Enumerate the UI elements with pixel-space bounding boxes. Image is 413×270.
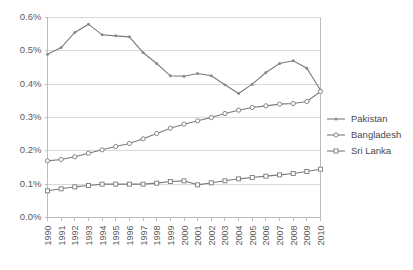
x-axis-tick-label: 2006: [261, 226, 271, 246]
data-point-marker: [100, 148, 104, 152]
data-point-marker: [168, 180, 172, 184]
data-point-marker: [141, 182, 145, 186]
x-axis-tick-label: 2000: [180, 226, 190, 246]
legend-item-sri-lanka[interactable]: Sri Lanka: [327, 145, 392, 156]
data-point-marker: [223, 179, 227, 183]
data-point-marker: [87, 23, 90, 26]
data-point-marker: [114, 34, 117, 37]
data-point-marker: [46, 189, 50, 193]
data-point-marker: [155, 62, 158, 65]
data-point-marker: [264, 104, 268, 108]
data-point-marker: [223, 111, 227, 115]
data-point-marker: [318, 89, 322, 93]
data-point-marker: [209, 181, 213, 185]
data-point-marker: [169, 74, 172, 77]
data-point-marker: [86, 184, 90, 188]
data-point-marker: [277, 102, 281, 106]
data-point-marker: [237, 177, 241, 181]
data-point-marker: [73, 31, 76, 34]
data-point-marker: [223, 83, 226, 86]
data-point-marker: [305, 99, 309, 103]
x-axis-tick-label: 1994: [98, 226, 108, 246]
data-point-marker: [114, 144, 118, 148]
data-point-marker: [155, 181, 159, 185]
x-axis-tick-label: 1996: [125, 226, 135, 246]
data-point-marker: [292, 59, 295, 62]
data-point-marker: [142, 51, 145, 54]
data-point-marker: [168, 126, 172, 130]
x-axis-tick-label: 2008: [289, 226, 299, 246]
data-point-marker: [196, 183, 200, 187]
data-point-marker: [291, 101, 295, 105]
x-axis-tick-label: 1999: [166, 226, 176, 246]
x-axis-tick-label: 1990: [43, 226, 53, 246]
data-point-marker: [182, 122, 186, 126]
x-axis-tick-label: 2002: [207, 226, 217, 246]
data-point-marker: [46, 53, 49, 56]
data-point-marker: [209, 115, 213, 119]
y-axis-tick-label: 0.0%: [20, 211, 42, 222]
data-point-marker: [305, 67, 308, 70]
x-axis-tick-label: 2004: [234, 226, 244, 246]
data-point-marker: [210, 74, 213, 77]
data-point-marker: [73, 155, 77, 159]
data-point-marker: [334, 149, 338, 153]
data-point-marker: [141, 137, 145, 141]
data-point-marker: [305, 170, 309, 174]
data-point-marker: [86, 151, 90, 155]
series-line-path: [48, 24, 321, 93]
data-point-marker: [196, 72, 199, 75]
data-point-marker: [319, 167, 323, 171]
data-point-marker: [60, 46, 63, 49]
series-sri-lanka: [46, 167, 323, 193]
y-axis-tick-label: 0.3%: [20, 111, 42, 122]
x-axis-tick-label: 1993: [84, 226, 94, 246]
data-point-marker: [127, 141, 131, 145]
x-axis-tick-label: 1995: [111, 226, 121, 246]
x-axis-tick-label: 1997: [139, 226, 149, 246]
legend-label: Pakistan: [351, 113, 387, 124]
data-point-marker: [251, 83, 254, 86]
y-axis-tick-label: 0.2%: [20, 144, 42, 155]
data-point-marker: [264, 71, 267, 74]
legend-item-bangladesh[interactable]: Bangladesh: [327, 129, 401, 140]
data-point-marker: [155, 131, 159, 135]
data-point-marker: [183, 75, 186, 78]
y-axis-tick-label: 0.5%: [20, 44, 42, 55]
data-point-marker: [127, 182, 131, 186]
x-axis-tick-label: 2001: [193, 226, 203, 246]
x-axis-tick-label: 2007: [275, 226, 285, 246]
data-point-marker: [291, 172, 295, 176]
legend-item-pakistan[interactable]: Pakistan: [327, 113, 387, 124]
x-axis-tick-label: 1991: [57, 226, 67, 246]
chart-legend: PakistanBangladeshSri Lanka: [327, 113, 401, 156]
line-chart: 0.6%0.5%0.4%0.3%0.2%0.1%0.0%199019911992…: [0, 0, 413, 270]
series-bangladesh: [45, 89, 322, 163]
data-point-marker: [237, 92, 240, 95]
legend-label: Bangladesh: [351, 129, 401, 140]
y-axis-tick-label: 0.4%: [20, 78, 42, 89]
data-point-marker: [73, 185, 77, 189]
data-point-marker: [250, 105, 254, 109]
y-axis-tick-label: 0.1%: [20, 178, 42, 189]
data-point-marker: [59, 187, 63, 191]
data-point-marker: [335, 118, 338, 121]
y-axis-tick-label: 0.6%: [20, 11, 42, 22]
x-axis-tick-label: 2005: [248, 226, 258, 246]
x-axis-group: 1990199119921993199419951996199719981999…: [43, 218, 326, 246]
data-point-marker: [237, 108, 241, 112]
data-point-marker: [100, 182, 104, 186]
x-axis-tick-label: 1998: [152, 226, 162, 246]
data-point-marker: [45, 159, 49, 163]
data-point-marker: [128, 35, 131, 38]
x-axis-tick-label: 2003: [220, 226, 230, 246]
data-point-marker: [264, 174, 268, 178]
chart-canvas: 0.6%0.5%0.4%0.3%0.2%0.1%0.0%199019911992…: [0, 0, 413, 270]
x-axis-tick-label: 2009: [302, 226, 312, 246]
data-point-marker: [59, 157, 63, 161]
data-point-marker: [101, 33, 104, 36]
legend-label: Sri Lanka: [351, 145, 392, 156]
data-point-marker: [250, 176, 254, 180]
x-axis-tick-label: 2010: [316, 226, 326, 246]
data-point-marker: [182, 179, 186, 183]
